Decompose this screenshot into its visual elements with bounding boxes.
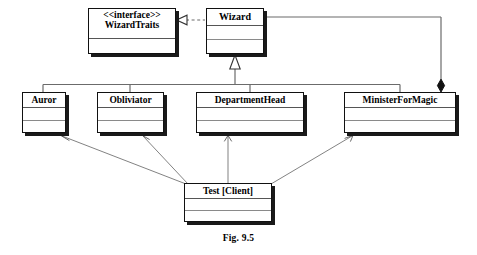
class-compartment-test-client-2 [185, 211, 271, 222]
class-title-wizardtraits: WizardTraits [89, 21, 175, 31]
class-box-departmenthead[interactable]: DepartmentHead [196, 92, 304, 133]
class-compartment-departmenthead-2 [197, 121, 303, 133]
class-compartment-obliviator-1 [98, 108, 163, 121]
class-box-auror[interactable]: Auror [22, 92, 66, 133]
edge-dependency-test-departmenthead [224, 135, 231, 183]
class-compartment-wizard-1 [207, 26, 263, 40]
class-compartment-ministerformagic-2 [345, 121, 455, 133]
class-name-departmenthead: DepartmentHead [197, 93, 303, 108]
edge-dependency-test-auror [61, 133, 186, 184]
class-compartment-wizard-2 [207, 40, 263, 53]
class-box-wizard[interactable]: Wizard [206, 8, 264, 54]
figure-caption: Fig. 9.5 [0, 233, 477, 243]
class-name-obliviator: Obliviator [98, 93, 163, 108]
class-compartment-wizardtraits-1 [89, 39, 175, 53]
edge-generalization-tree [43, 55, 400, 92]
class-compartment-departmenthead-1 [197, 108, 303, 121]
class-compartment-obliviator-2 [98, 121, 163, 133]
class-compartment-auror-1 [23, 108, 65, 121]
class-compartment-test-client-1 [185, 199, 271, 211]
class-name-ministerformagic: MinisterForMagic [345, 93, 455, 108]
uml-class-diagram: each class (open arrows) ============ --… [0, 0, 477, 255]
edge-dependency-test-ministerformagic [271, 135, 353, 184]
class-box-ministerformagic[interactable]: MinisterForMagic [344, 92, 456, 133]
class-compartment-ministerformagic-1 [345, 108, 455, 121]
edge-realization-wizard-wizardtraits [177, 15, 206, 25]
class-box-test-client[interactable]: Test [Client] [184, 183, 272, 222]
class-box-wizardtraits[interactable]: <<interface>> WizardTraits [88, 8, 176, 54]
class-name-auror: Auror [23, 93, 65, 108]
class-name-wizardtraits: <<interface>> WizardTraits [89, 9, 175, 39]
class-name-wizard: Wizard [207, 9, 263, 26]
class-compartment-auror-2 [23, 121, 65, 133]
edge-composition-wizard-ministerformagic [265, 17, 445, 92]
class-box-obliviator[interactable]: Obliviator [97, 92, 164, 133]
class-name-test-client: Test [Client] [185, 184, 271, 199]
